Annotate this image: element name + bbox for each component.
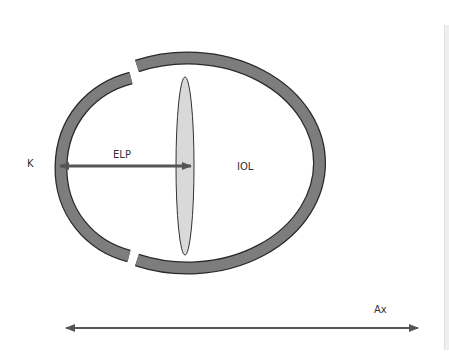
label-elp: ELP bbox=[113, 150, 131, 160]
label-iol: IOL bbox=[237, 162, 253, 172]
label-ax: Ax bbox=[374, 305, 387, 315]
sclera-wall bbox=[137, 58, 320, 268]
label-k: K bbox=[27, 159, 34, 169]
